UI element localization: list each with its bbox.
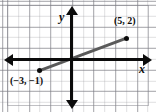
x-axis-left-arrowhead — [4, 54, 13, 66]
y-axis-down-arrowhead — [66, 100, 78, 109]
x-axis — [12, 58, 146, 61]
data-point-a-label: (5, 2) — [114, 16, 136, 26]
coordinate-plane-figure: y x (5, 2) (−3, −1) — [0, 0, 156, 112]
x-axis-label: x — [139, 63, 145, 75]
y-axis-label: y — [59, 11, 64, 23]
data-point-a — [124, 36, 129, 41]
data-point-b-label: (−3, −1) — [10, 76, 43, 86]
y-axis — [70, 14, 73, 103]
y-axis-up-arrowhead — [66, 6, 78, 15]
